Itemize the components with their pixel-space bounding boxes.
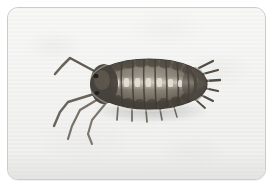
photo-frame [7,7,266,180]
figure-root [0,0,274,188]
eye-right [95,91,100,95]
uropod-3 [205,80,220,81]
eye-left [93,74,98,78]
leg-1 [68,98,100,139]
leg-3 [117,107,118,120]
leg-5 [146,110,147,122]
uropod-1 [199,61,213,68]
woodlouse-illustration [8,8,266,180]
head-highlight [94,70,110,90]
woodlouse-specimen [8,8,266,180]
antennae [54,58,96,126]
dorsal-highlights [114,78,182,87]
